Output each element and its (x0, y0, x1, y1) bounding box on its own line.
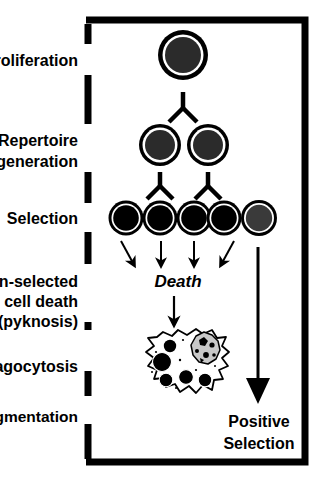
cell-selection-3 (177, 201, 212, 236)
positive-selection-label: Positive Selection (223, 413, 294, 452)
branch-connector-3 (195, 172, 221, 199)
stage-label-repertoire-generation-line-1: Repertoire (0, 132, 78, 149)
stage-label-repertoire-generation: Repertoire generation (0, 132, 78, 170)
frame-border (86, 20, 305, 462)
death-arrows-group (121, 241, 234, 263)
stage-label-non-selected-cell-death-line-3: (pyknosis) (0, 313, 78, 330)
process-diagram: Proliferation Repertoire generation Sele… (0, 0, 321, 478)
cell-selection-1 (109, 201, 144, 236)
positive-selection-line-2: Selection (223, 435, 294, 452)
cell-proliferation-1 (158, 30, 208, 80)
stage-label-repertoire-generation-line-2: generation (0, 153, 78, 170)
stage-label-dna-fragmentation-line-1: DNA fragmentation (0, 408, 78, 425)
stage-label-proliferation-line-1: Proliferation (0, 52, 78, 69)
cell-selection-5-surviving (241, 200, 277, 236)
stage-label-selection-line-1: Selection (7, 210, 78, 227)
stage-label-non-selected-cell-death-line-2: cell death (4, 293, 78, 310)
figure-canvas: Proliferation Repertoire generation Sele… (0, 0, 321, 478)
branch-connector-1 (169, 92, 197, 122)
stage-label-proliferation: Proliferation (0, 52, 78, 69)
phagocyte-illustration (146, 329, 229, 393)
stage-label-non-selected-cell-death: Non-selected cell death (pyknosis) (0, 273, 78, 330)
death-label: Death (154, 272, 201, 291)
stage-label-phagocytosis: Phagocytosis (0, 358, 78, 375)
cell-selection-4 (207, 201, 242, 236)
positive-selection-arrow (246, 247, 270, 404)
death-arrow-1 (121, 241, 133, 263)
death-arrow-4 (222, 241, 234, 263)
cell-selection-2 (143, 201, 178, 236)
branch-connector-2 (147, 172, 173, 199)
positive-selection-line-1: Positive (228, 413, 289, 430)
stage-label-non-selected-cell-death-line-1: Non-selected (0, 273, 78, 290)
stage-label-dna-fragmentation: DNA fragmentation (0, 408, 78, 425)
cell-repertoire-1 (139, 124, 181, 166)
stage-label-phagocytosis-line-1: Phagocytosis (0, 358, 78, 375)
cell-repertoire-2 (187, 124, 229, 166)
stage-label-selection: Selection (7, 210, 78, 227)
